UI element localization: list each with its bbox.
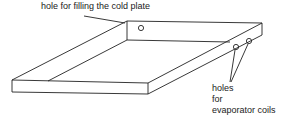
fill-hole (138, 25, 143, 30)
front-wall (12, 80, 148, 94)
coil-holes-label-line1: holes (212, 84, 234, 93)
fill-hole-label: hole for filling the cold plate (41, 2, 150, 11)
cold-plate-diagram: hole for filling the cold plate holes fo… (0, 0, 292, 129)
coil-holes-label-line3: evaporator coils (212, 106, 276, 115)
coil-holes-label-line2: for (212, 95, 223, 104)
